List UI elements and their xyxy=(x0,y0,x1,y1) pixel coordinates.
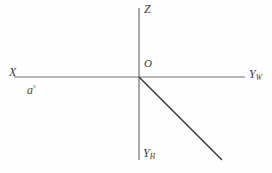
coordinate-axes-diagram: Z O X YW YH a° xyxy=(0,0,272,173)
origin-label-text: O xyxy=(144,57,152,69)
degree-icon: ° xyxy=(33,84,36,93)
axes-canvas xyxy=(0,0,272,173)
axis-label-z: Z xyxy=(144,3,151,15)
axis-label-y-w-subscript: W xyxy=(256,73,262,82)
angle-label: a° xyxy=(27,84,36,96)
axis-label-z-text: Z xyxy=(144,2,151,16)
axis-label-y-w: YW xyxy=(249,68,262,82)
axis-label-y-w-base: Y xyxy=(249,67,256,81)
axis-label-y-h-subscript: H xyxy=(150,152,156,161)
axis-label-y-h-base: Y xyxy=(143,146,150,160)
axis-label-y-h: YH xyxy=(143,147,155,161)
origin-label: O xyxy=(144,58,152,69)
axis-label-x-text: X xyxy=(9,65,16,79)
axis-label-x: X xyxy=(9,66,16,78)
